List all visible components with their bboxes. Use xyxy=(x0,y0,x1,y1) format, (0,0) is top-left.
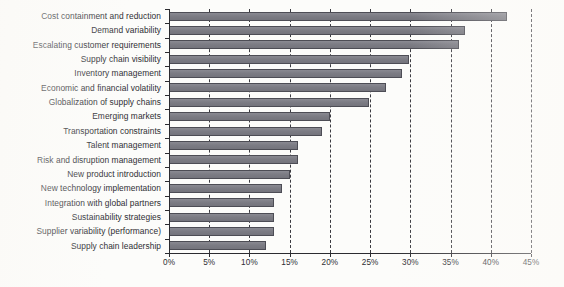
bar-row xyxy=(169,210,531,224)
category-axis-labels: Cost containment and reductionDemand var… xyxy=(0,9,166,253)
x-axis-tick-label: 45% xyxy=(523,258,540,267)
bar-row xyxy=(169,95,531,109)
x-axis-tick xyxy=(330,254,331,257)
x-axis-tick xyxy=(531,254,532,257)
bar xyxy=(169,83,386,92)
x-axis-labels: 0%5%10%15%20%25%30%35%40%45% xyxy=(169,254,531,276)
bar-row xyxy=(169,66,531,80)
x-axis-tick-label: 10% xyxy=(241,258,258,267)
category-label: Cost containment and reduction xyxy=(0,9,166,23)
bar-row xyxy=(169,138,531,152)
x-axis-tick-label: 0% xyxy=(163,258,175,267)
x-axis-tick-label: 5% xyxy=(203,258,215,267)
category-label: Economic and financial volatility xyxy=(0,81,166,95)
category-label: Risk and disruption management xyxy=(0,153,166,167)
bar xyxy=(169,98,369,107)
bar xyxy=(169,12,507,21)
x-axis-tick xyxy=(209,254,210,257)
bar-row xyxy=(169,239,531,253)
bar xyxy=(169,213,274,222)
category-label: Supply chain leadership xyxy=(0,239,166,253)
category-label: Emerging markets xyxy=(0,110,166,124)
bar xyxy=(169,127,322,136)
x-axis-tick-label: 20% xyxy=(322,258,339,267)
x-axis-tick xyxy=(451,254,452,257)
bar xyxy=(169,227,274,236)
x-axis-tick-label: 15% xyxy=(281,258,298,267)
x-axis-tick xyxy=(290,254,291,257)
bar xyxy=(169,40,459,49)
x-axis-tick-label: 40% xyxy=(482,258,499,267)
bar-row xyxy=(169,124,531,138)
category-label: Talent management xyxy=(0,138,166,152)
x-axis-tick-label: 25% xyxy=(362,258,379,267)
bar xyxy=(169,184,282,193)
x-axis-tick-label: 35% xyxy=(442,258,459,267)
bar xyxy=(169,170,290,179)
category-label: Supply chain visibility xyxy=(0,52,166,66)
bar xyxy=(169,198,274,207)
category-label: Supplier variability (performance) xyxy=(0,224,166,238)
bar xyxy=(169,112,330,121)
y-axis-line xyxy=(169,9,170,253)
x-axis-tick xyxy=(410,254,411,257)
plot-area xyxy=(169,9,531,253)
category-label: Demand variability xyxy=(0,23,166,37)
x-axis-tick xyxy=(249,254,250,257)
bar-row xyxy=(169,38,531,52)
bar-chart: Cost containment and reductionDemand var… xyxy=(0,0,564,287)
bar xyxy=(169,155,298,164)
category-label: Escalating customer requirements xyxy=(0,38,166,52)
bar-row xyxy=(169,224,531,238)
bar-series xyxy=(169,9,531,253)
bar xyxy=(169,69,402,78)
x-axis-tick-label: 30% xyxy=(402,258,419,267)
category-label: Globalization of supply chains xyxy=(0,95,166,109)
x-axis-tick xyxy=(491,254,492,257)
bar-row xyxy=(169,167,531,181)
bar-row xyxy=(169,81,531,95)
bar-row xyxy=(169,196,531,210)
gridline xyxy=(531,9,532,253)
bar xyxy=(169,141,298,150)
category-label: Integration with global partners xyxy=(0,196,166,210)
category-label: Transportation constraints xyxy=(0,124,166,138)
bar xyxy=(169,241,266,250)
bar-row xyxy=(169,181,531,195)
category-label: New product introduction xyxy=(0,167,166,181)
category-label: New technology implementation xyxy=(0,181,166,195)
bar xyxy=(169,55,409,64)
bar-row xyxy=(169,23,531,37)
bar-row xyxy=(169,52,531,66)
bar-row xyxy=(169,9,531,23)
x-axis-tick xyxy=(169,254,170,257)
bar xyxy=(169,26,465,35)
category-label: Inventory management xyxy=(0,66,166,80)
bar-row xyxy=(169,110,531,124)
bar-row xyxy=(169,153,531,167)
x-axis-tick xyxy=(370,254,371,257)
category-label: Sustainability strategies xyxy=(0,210,166,224)
